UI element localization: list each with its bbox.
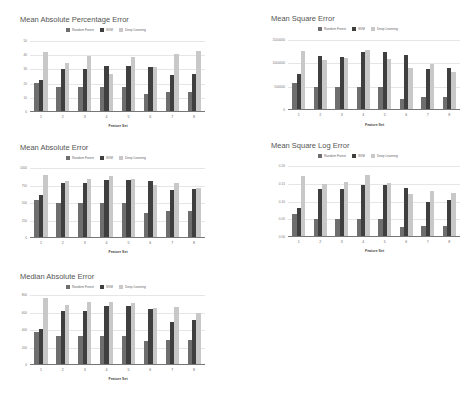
x-tick-label: 4 bbox=[358, 113, 368, 117]
legend-swatch bbox=[100, 28, 104, 32]
x-tick-label: 1 bbox=[36, 115, 46, 119]
x-tick-label: 7 bbox=[423, 240, 433, 244]
legend-item: Deep Learning bbox=[371, 154, 398, 158]
y-tick-label: 800 bbox=[7, 293, 27, 297]
legend-swatch bbox=[66, 156, 70, 160]
bar-deep-learning bbox=[109, 176, 113, 238]
x-tick-label: 7 bbox=[167, 241, 177, 245]
x-tick-label: 7 bbox=[167, 368, 177, 372]
legend-item: Random Forest bbox=[66, 156, 94, 160]
bar-deep-learning bbox=[408, 194, 412, 237]
y-tick-label: 200 bbox=[7, 346, 27, 350]
x-tick-label: 8 bbox=[444, 240, 454, 244]
y-tick-label: 30 bbox=[7, 67, 27, 71]
legend-swatch bbox=[119, 28, 123, 32]
x-tick-label: 1 bbox=[294, 240, 304, 244]
legend-item: Deep Learning bbox=[371, 27, 398, 31]
y-tick-label: 750 bbox=[7, 184, 27, 188]
bar-deep-learning bbox=[365, 50, 369, 110]
gridline bbox=[30, 168, 205, 169]
legend-label: Random Forest bbox=[324, 154, 346, 158]
bar-deep-learning bbox=[387, 59, 391, 110]
y-tick-label: 1000000 bbox=[265, 61, 285, 65]
gridline bbox=[30, 41, 205, 42]
bar-deep-learning bbox=[174, 183, 178, 238]
x-axis-label: Feature Set bbox=[109, 124, 128, 128]
y-tick-label: 400 bbox=[7, 328, 27, 332]
legend-label: Deep Learning bbox=[125, 28, 146, 32]
y-tick-label: 1500000 bbox=[265, 38, 285, 42]
x-axis-line bbox=[30, 364, 205, 365]
x-axis-line bbox=[288, 109, 460, 110]
chart-legend: Random ForestSVMDeep Learning bbox=[318, 154, 398, 158]
x-tick-label: 3 bbox=[337, 240, 347, 244]
bar-deep-learning bbox=[196, 188, 200, 238]
bar-deep-learning bbox=[65, 305, 69, 365]
legend-swatch bbox=[100, 285, 104, 289]
x-tick-label: 4 bbox=[102, 115, 112, 119]
bar-deep-learning bbox=[43, 298, 47, 365]
legend-swatch bbox=[119, 156, 123, 160]
bar-deep-learning bbox=[322, 184, 326, 237]
chart-title: Mean Absolute Percentage Error bbox=[20, 15, 129, 24]
x-axis-line bbox=[288, 236, 460, 237]
legend-label: Deep Learning bbox=[377, 27, 398, 31]
legend-item: Random Forest bbox=[66, 28, 94, 32]
bar-deep-learning bbox=[344, 58, 348, 110]
gridline bbox=[30, 330, 205, 331]
legend-label: SVM bbox=[358, 27, 365, 31]
x-tick-label: 4 bbox=[358, 240, 368, 244]
bar-deep-learning bbox=[301, 51, 305, 110]
x-tick-label: 6 bbox=[145, 115, 155, 119]
legend-swatch bbox=[371, 27, 375, 31]
x-tick-label: 1 bbox=[36, 241, 46, 245]
x-tick-label: 8 bbox=[444, 113, 454, 117]
chart-legend: Random ForestSVMDeep Learning bbox=[318, 27, 398, 31]
bar-deep-learning bbox=[387, 183, 391, 237]
bar-deep-learning bbox=[301, 176, 305, 237]
plot-area: 0250500750100012345678 bbox=[30, 168, 205, 238]
legend-swatch bbox=[318, 27, 322, 31]
x-axis-label: Feature Set bbox=[365, 123, 384, 127]
bar-deep-learning bbox=[430, 64, 434, 110]
bar-deep-learning bbox=[174, 54, 178, 112]
y-tick-label: 600 bbox=[7, 311, 27, 315]
gridline bbox=[30, 55, 205, 56]
legend-swatch bbox=[371, 154, 375, 158]
legend-item: SVM bbox=[100, 285, 113, 289]
legend-item: SVM bbox=[100, 156, 113, 160]
bar-deep-learning bbox=[408, 68, 412, 110]
x-tick-label: 1 bbox=[294, 113, 304, 117]
legend-item: Random Forest bbox=[66, 285, 94, 289]
bar-deep-learning bbox=[109, 74, 113, 112]
gridline bbox=[288, 184, 460, 185]
bar-deep-learning bbox=[153, 67, 157, 112]
legend-label: Deep Learning bbox=[377, 154, 398, 158]
x-tick-label: 7 bbox=[423, 113, 433, 117]
legend-item: Random Forest bbox=[318, 27, 346, 31]
y-tick-label: 0.10 bbox=[265, 200, 285, 204]
bar-deep-learning bbox=[131, 179, 135, 238]
bar-deep-learning bbox=[451, 193, 455, 237]
gridline bbox=[30, 84, 205, 85]
y-tick-label: 0 bbox=[7, 363, 27, 367]
legend-label: Random Forest bbox=[324, 27, 346, 31]
x-axis-label: Feature Set bbox=[109, 377, 128, 381]
y-tick-label: 0.05 bbox=[265, 217, 285, 221]
legend-item: Deep Learning bbox=[119, 156, 146, 160]
legend-label: Random Forest bbox=[72, 28, 94, 32]
x-tick-label: 1 bbox=[36, 368, 46, 372]
legend-item: SVM bbox=[352, 154, 365, 158]
plot-area: 0102030405012345678 bbox=[30, 41, 205, 112]
x-tick-label: 8 bbox=[189, 115, 199, 119]
bar-deep-learning bbox=[174, 307, 178, 365]
y-tick-label: 0 bbox=[7, 110, 27, 114]
bar-deep-learning bbox=[43, 175, 47, 238]
bar-deep-learning bbox=[109, 302, 113, 365]
y-tick-label: 0.15 bbox=[265, 182, 285, 186]
legend-label: Deep Learning bbox=[125, 156, 146, 160]
bar-deep-learning bbox=[153, 185, 157, 238]
legend-swatch bbox=[352, 154, 356, 158]
legend-label: Random Forest bbox=[72, 156, 94, 160]
gridline bbox=[30, 313, 205, 314]
